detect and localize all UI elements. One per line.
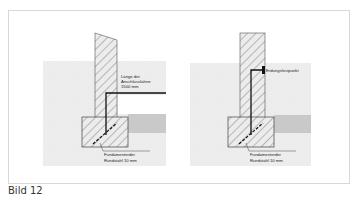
wall <box>240 33 265 118</box>
left-panel: Länge der Anschlussfahne 1500 mm Fundame… <box>43 33 166 166</box>
slab-top-white <box>118 95 166 114</box>
footing-label: Rundstahl 10 mm <box>104 158 137 163</box>
figure-caption: Bild 12 <box>8 185 43 196</box>
ground-point-terminal <box>262 66 265 74</box>
floor-slab <box>274 115 311 133</box>
footing-label: Rundstahl 10 mm <box>250 158 283 163</box>
foundation-earthing-diagram: Länge der Anschlussfahne 1500 mm Fundame… <box>0 0 356 197</box>
floor-slab <box>128 114 166 133</box>
footing-label: Fundamenterder <box>250 152 282 157</box>
length-label: 1500 mm <box>121 84 139 89</box>
footing <box>82 117 128 147</box>
ground-point-label: Erdungsfestpunkt <box>266 68 299 73</box>
footing-label: Fundamenterder <box>104 152 136 157</box>
right-panel: Erdungsfestpunkt Fundamenterder Rundstah… <box>190 33 311 166</box>
